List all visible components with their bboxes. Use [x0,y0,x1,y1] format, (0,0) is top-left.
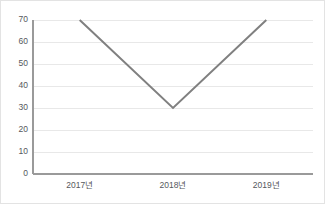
y-axis-tick-labels: 70 60 50 40 30 20 10 0 [19,14,29,178]
x-tick-label-2018: 2018년 [160,180,187,190]
y-tick-label-30: 30 [19,102,29,112]
chart-canvas: 70 60 50 40 30 20 10 0 2017년 2018년 2019년 [1,1,325,204]
axes [33,20,313,174]
y-tick-label-0: 0 [23,168,28,178]
y-tick-label-20: 20 [19,124,29,134]
x-tick-label-2019: 2019년 [253,180,280,190]
y-tick-label-50: 50 [19,58,29,68]
gridlines [33,20,313,152]
line-chart-figure: 70 60 50 40 30 20 10 0 2017년 2018년 2019년 [0,0,325,204]
y-tick-label-10: 10 [19,146,29,156]
y-tick-label-70: 70 [19,14,29,24]
x-tick-label-2017: 2017년 [66,180,93,190]
x-axis-tick-labels: 2017년 2018년 2019년 [66,180,280,190]
y-tick-label-40: 40 [19,80,29,90]
y-tick-label-60: 60 [19,36,29,46]
